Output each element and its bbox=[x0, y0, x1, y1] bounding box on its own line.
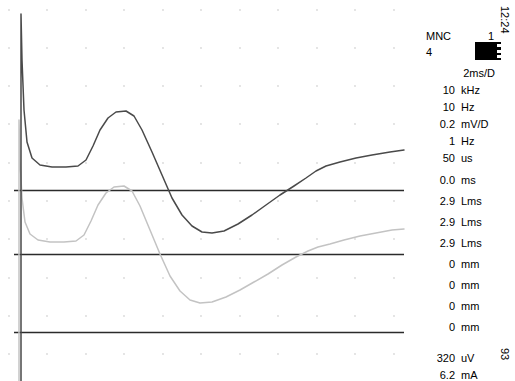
measurement-latency-1[interactable]: 2.9 Lms bbox=[413, 196, 495, 207]
measurement-distance-3-unit: mm bbox=[455, 322, 495, 333]
reading-current-value: 6.2 bbox=[413, 370, 455, 381]
waveform-trace-lower bbox=[19, 120, 404, 381]
setting-sample-rate[interactable]: 10 kHz bbox=[413, 85, 495, 96]
setting-sample-rate-unit: kHz bbox=[455, 85, 495, 96]
waveform-plot[interactable] bbox=[0, 0, 415, 381]
measurement-latency-1-unit: Lms bbox=[455, 196, 495, 207]
measurement-distance-0-value: 0 bbox=[413, 259, 455, 270]
setting-high-filter-unit: Hz bbox=[455, 102, 495, 113]
measurement-distance-1[interactable]: 0 mm bbox=[413, 280, 495, 291]
measurement-distance-2[interactable]: 0 mm bbox=[413, 301, 495, 312]
measurement-distance-0-unit: mm bbox=[455, 259, 495, 270]
measurement-latency-1-value: 2.9 bbox=[413, 196, 455, 207]
measurement-latency-2-value: 2.9 bbox=[413, 217, 455, 228]
measurement-latency-0-value: 0.0 bbox=[413, 175, 455, 186]
measurement-latency-3[interactable]: 2.9 Lms bbox=[413, 238, 495, 249]
filled-block-marker-icon bbox=[475, 42, 501, 60]
measurement-latency-2[interactable]: 2.9 Lms bbox=[413, 217, 495, 228]
measurement-latency-2-unit: Lms bbox=[455, 217, 495, 228]
reading-amplitude-unit: uV bbox=[455, 353, 495, 364]
monitor-screen: MNC 1 4 2ms/D 10 kHz 10 Hz 0.2 mV/D 1 Hz… bbox=[0, 0, 515, 381]
waveform-trace-upper bbox=[21, 14, 404, 381]
setting-stim-rate-unit: Hz bbox=[455, 136, 495, 147]
readout-panel: MNC 1 4 2ms/D 10 kHz 10 Hz 0.2 mV/D 1 Hz… bbox=[413, 0, 515, 381]
clock-timestamp: 12:24 bbox=[499, 6, 510, 34]
setting-gain-value: 0.2 bbox=[413, 119, 455, 130]
marker-notch-bot bbox=[497, 55, 501, 58]
measurement-distance-0[interactable]: 0 mm bbox=[413, 259, 495, 270]
measurement-latency-0[interactable]: 0.0 ms bbox=[413, 175, 495, 186]
mode-sub-value: 4 bbox=[426, 47, 432, 58]
measurement-latency-0-unit: ms bbox=[455, 175, 495, 186]
measurement-distance-1-value: 0 bbox=[413, 280, 455, 291]
marker-notch-top bbox=[497, 44, 501, 47]
setting-pulse-width-value: 50 bbox=[413, 153, 455, 164]
setting-gain[interactable]: 0.2 mV/D bbox=[413, 119, 495, 130]
measurement-distance-2-value: 0 bbox=[413, 301, 455, 312]
setting-stim-rate-value: 1 bbox=[413, 136, 455, 147]
reading-amplitude-value: 320 bbox=[413, 353, 455, 364]
channel-value: 1 bbox=[488, 31, 494, 42]
reading-current[interactable]: 6.2 mA bbox=[413, 370, 495, 381]
setting-stim-rate[interactable]: 1 Hz bbox=[413, 136, 495, 147]
setting-high-filter-value: 10 bbox=[413, 102, 455, 113]
setting-pulse-width-unit: us bbox=[455, 153, 495, 164]
reading-current-unit: mA bbox=[455, 370, 495, 381]
page-number: 93 bbox=[499, 348, 510, 360]
setting-high-filter[interactable]: 10 Hz bbox=[413, 102, 495, 113]
mode-label: MNC bbox=[426, 31, 451, 42]
setting-sample-rate-value: 10 bbox=[413, 85, 455, 96]
setting-pulse-width[interactable]: 50 us bbox=[413, 153, 495, 164]
setting-gain-unit: mV/D bbox=[455, 119, 495, 130]
measurement-distance-1-unit: mm bbox=[455, 280, 495, 291]
measurement-distance-3[interactable]: 0 mm bbox=[413, 322, 495, 333]
measurement-latency-3-value: 2.9 bbox=[413, 238, 455, 249]
measurement-distance-2-unit: mm bbox=[455, 301, 495, 312]
measurement-distance-3-value: 0 bbox=[413, 322, 455, 333]
measurement-latency-3-unit: Lms bbox=[455, 238, 495, 249]
marker-notch-mid bbox=[497, 50, 501, 53]
setting-sweep-speed[interactable]: 2ms/D bbox=[413, 68, 495, 79]
reading-amplitude[interactable]: 320 uV bbox=[413, 353, 495, 364]
